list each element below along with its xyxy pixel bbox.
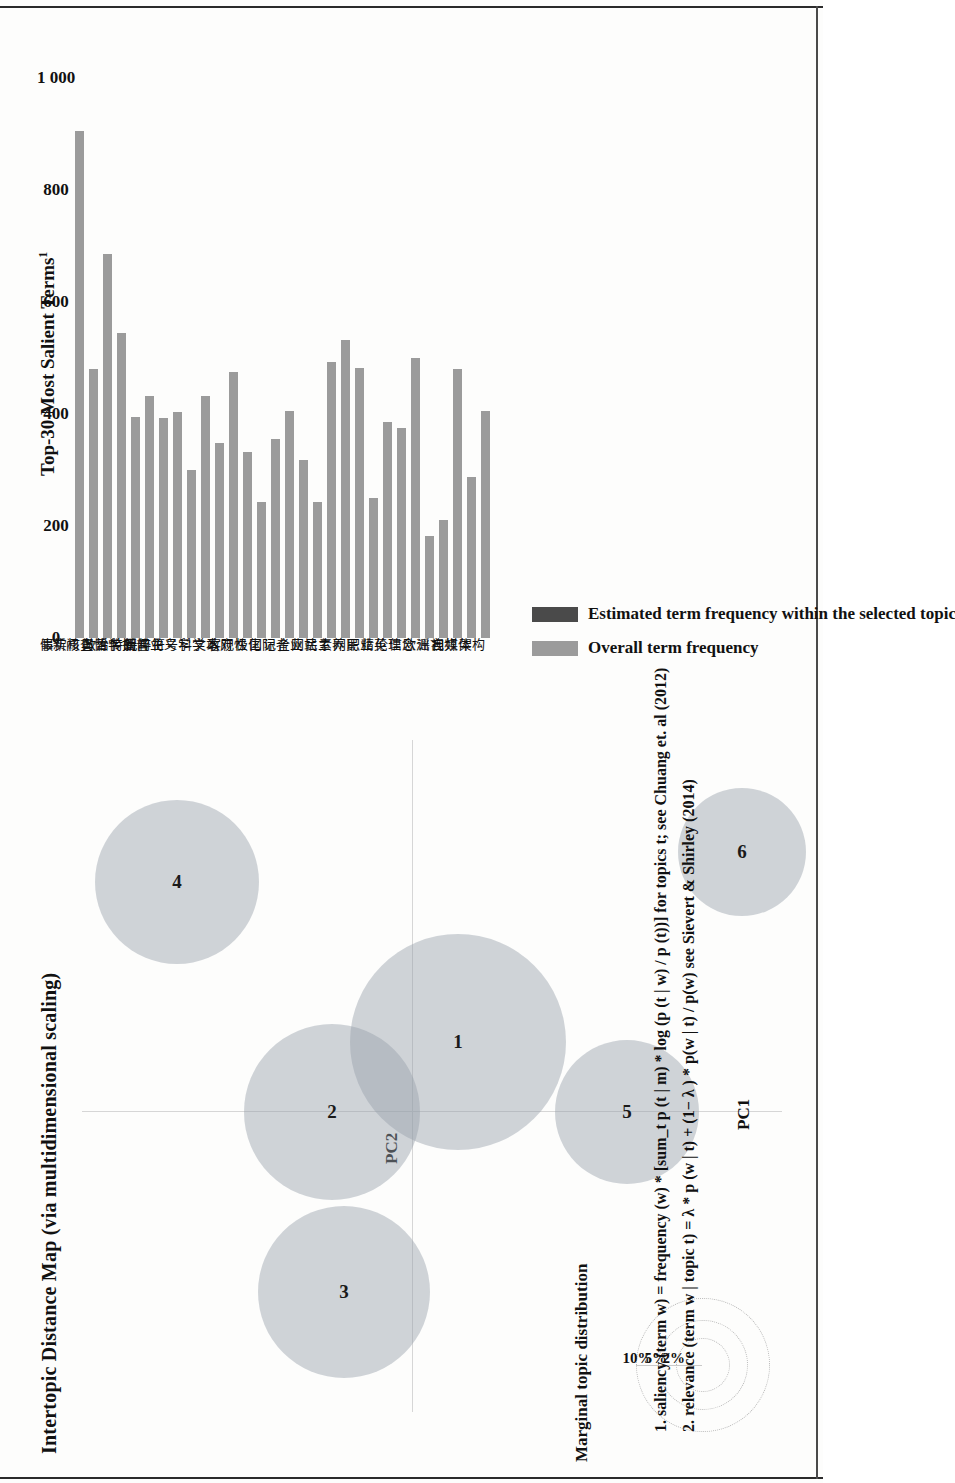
topic-bubble-label: 2 — [327, 1101, 337, 1123]
bar-16[interactable] — [284, 411, 293, 638]
chart-legend: Overall term frequencyEstimated term fre… — [532, 78, 622, 638]
bar-13[interactable] — [242, 451, 251, 637]
topic-bubble-4[interactable]: 4 — [95, 800, 259, 964]
bar-6[interactable] — [144, 396, 153, 638]
bar-row[interactable]: 舆情 — [102, 78, 111, 638]
bar-24[interactable] — [396, 428, 405, 638]
figure-footnotes: 1. saliency (term w) = frequency (w) * [… — [652, 102, 708, 1432]
bar-7[interactable] — [158, 417, 167, 637]
bar-23[interactable] — [382, 422, 391, 638]
marginal-ring-label-10%: 10% — [622, 1349, 652, 1366]
bar-29[interactable] — [466, 476, 475, 637]
intertopic-map-title: Intertopic Distance Map (via multidimens… — [38, 972, 61, 1453]
bar-18[interactable] — [312, 502, 321, 638]
bar-17[interactable] — [298, 459, 307, 637]
bar-30[interactable] — [480, 411, 489, 638]
legend-item-2[interactable]: Estimated term frequency within the sele… — [532, 604, 955, 624]
bar-row[interactable]: 政府 — [228, 78, 237, 638]
bar-21[interactable] — [354, 367, 363, 637]
bar-11[interactable] — [214, 443, 223, 638]
footnote-2: 2. relevance (term w | topic t) = λ * p … — [680, 102, 698, 1432]
topic-bubble-3[interactable]: 3 — [258, 1206, 430, 1378]
bar-row[interactable]: 科学 — [200, 78, 209, 638]
bar-26[interactable] — [424, 535, 433, 637]
bar-8[interactable] — [172, 412, 181, 638]
pc1-axis-label: PC1 — [734, 1098, 754, 1129]
bar-row[interactable]: 职业 — [368, 78, 377, 638]
bar-3[interactable] — [102, 254, 111, 638]
bar-row[interactable]: 假新闻 — [74, 78, 83, 638]
bar-group: 假新闻事实核查舆情哲学政治传播特朗普新闻业民粹主义符号学科学文本政府客观性极化国… — [72, 78, 492, 638]
bar-row[interactable]: 网民 — [354, 78, 363, 638]
bar-row[interactable]: 事实核查 — [88, 78, 97, 638]
bar-row[interactable]: 视频 — [452, 78, 461, 638]
bar-row[interactable]: 谣言 — [438, 78, 447, 638]
bar-row[interactable]: 哲学 — [116, 78, 125, 638]
bar-28[interactable] — [452, 369, 461, 638]
bar-row[interactable]: 精英 — [382, 78, 391, 638]
bar-12[interactable] — [228, 372, 237, 638]
bar-row[interactable]: 素养 — [340, 78, 349, 638]
bar-row[interactable]: 自媒体 — [466, 78, 475, 638]
bar-row[interactable]: 信念 — [410, 78, 419, 638]
topic-bubble-label: 1 — [453, 1031, 463, 1053]
bar-row[interactable]: 客观性 — [242, 78, 251, 638]
bar-25[interactable] — [410, 358, 419, 638]
bar-22[interactable] — [368, 498, 377, 638]
bar-14[interactable] — [256, 502, 265, 638]
salient-terms-title: Top-30 Most Salient Terms1 — [36, 251, 59, 475]
bar-10[interactable] — [200, 396, 209, 638]
bar-9[interactable] — [186, 470, 195, 638]
marginal-topic-distribution-title: Marginal topic distribution — [572, 1263, 592, 1461]
page-border-top — [0, 6, 823, 8]
legend-swatch — [532, 606, 578, 621]
bar-1[interactable] — [74, 131, 83, 638]
page-border-bottom — [0, 1477, 823, 1479]
bar-5[interactable] — [130, 416, 139, 637]
bar-row[interactable]: 符号学 — [186, 78, 195, 638]
bar-row[interactable]: 政治传播 — [130, 78, 139, 638]
bar-4[interactable] — [116, 332, 125, 637]
bar-row[interactable]: 架构 — [480, 78, 489, 638]
footnote-1: 1. saliency (term w) = frequency (w) * [… — [652, 102, 670, 1432]
value-axis-tick-600: 600 — [43, 292, 69, 312]
bar-row[interactable]: 国际 — [270, 78, 279, 638]
topic-bubble-label: 3 — [339, 1281, 349, 1303]
bar-row[interactable]: 极化 — [256, 78, 265, 638]
topic-bubble-label: 5 — [622, 1101, 632, 1123]
bar-row[interactable]: 文本 — [214, 78, 223, 638]
bar-row[interactable]: 网站 — [312, 78, 321, 638]
bar-20[interactable] — [340, 340, 349, 638]
bar-2[interactable] — [88, 369, 97, 638]
bar-category-label: 架构 — [459, 639, 485, 648]
topic-bubble-2[interactable]: 2 — [244, 1024, 420, 1200]
bar-row[interactable]: 民主 — [326, 78, 335, 638]
bar-row[interactable]: 新闻业 — [158, 78, 167, 638]
bar-row[interactable]: 民粹主义 — [172, 78, 181, 638]
ldavis-figure: Intertopic Distance Map (via multidimens… — [12, 12, 812, 1472]
bar-27[interactable] — [438, 520, 447, 638]
bar-row[interactable]: 伦理 — [396, 78, 405, 638]
bar-row[interactable]: 记者 — [284, 78, 293, 638]
salient-terms-title-text: Top-30 Most Salient Terms — [37, 257, 58, 475]
salient-terms-title-footnote-marker: 1 — [36, 251, 50, 257]
value-axis-tick-200: 200 — [43, 516, 69, 536]
bar-row[interactable]: 特朗普 — [144, 78, 153, 638]
bar-row[interactable]: 欧洲 — [424, 78, 433, 638]
value-axis-tick-400: 400 — [43, 404, 69, 424]
legend-item-1[interactable]: Overall term frequency — [532, 638, 759, 658]
bar-row[interactable]: 企业 — [298, 78, 307, 638]
topic-bubble-label: 6 — [737, 841, 747, 863]
value-axis-tick-1000: 1 000 — [36, 68, 74, 88]
legend-label: Estimated term frequency within the sele… — [588, 604, 955, 624]
page-border-right — [816, 6, 818, 1479]
legend-swatch — [532, 640, 578, 655]
value-axis-tick-800: 800 — [43, 180, 69, 200]
salient-terms-plot-area: 02004006008001 000 假新闻事实核查舆情哲学政治传播特朗普新闻业… — [72, 78, 492, 638]
bar-15[interactable] — [270, 439, 279, 638]
bar-19[interactable] — [326, 362, 335, 638]
topic-bubble-label: 4 — [172, 871, 182, 893]
